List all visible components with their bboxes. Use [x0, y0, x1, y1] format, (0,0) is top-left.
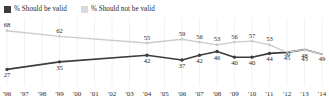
data-point	[198, 41, 201, 44]
data-point	[268, 44, 271, 47]
data-label: 42	[196, 57, 203, 64]
x-axis-tick-03: '03	[125, 89, 133, 99]
data-label: 37	[179, 62, 186, 69]
legend-swatch-not-valid	[81, 6, 88, 13]
x-axis-tick-08: '08	[213, 89, 221, 99]
x-axis-tick-14: '14	[318, 89, 326, 99]
data-label: 40	[231, 59, 238, 66]
data-label: 27	[4, 71, 11, 78]
data-label: 35	[56, 64, 63, 71]
data-label: 53	[266, 35, 273, 42]
data-point	[146, 42, 149, 45]
x-axis-tick-10: '10	[248, 89, 256, 99]
data-point	[6, 29, 9, 32]
data-label: 40	[249, 59, 256, 66]
x-axis-tick-02: '02	[108, 89, 116, 99]
chart-x-axis: '96'97'98'99'00'01'02'03'04'05'06'07'08'…	[0, 89, 329, 103]
chart-legend: % Should be valid % Should not be valid	[4, 3, 155, 15]
chart-container: % Should be valid % Should not be valid …	[0, 0, 329, 106]
legend-item-not-valid: % Should not be valid	[81, 5, 155, 13]
data-point	[233, 41, 236, 44]
legend-label-not-valid: % Should not be valid	[91, 5, 155, 13]
data-label: 43	[301, 55, 308, 62]
x-axis-tick-05: '05	[160, 89, 168, 99]
x-axis-tick-09: '09	[230, 89, 238, 99]
x-axis-tick-01: '01	[90, 89, 98, 99]
x-axis-tick-99: '99	[55, 89, 63, 99]
data-label: 42	[144, 57, 151, 64]
legend-label-valid: % Should be valid	[14, 5, 67, 13]
data-point	[58, 35, 61, 38]
x-axis-tick-96: '96	[3, 89, 11, 99]
x-axis-tick-06: '06	[178, 89, 186, 99]
x-axis-tick-13: '13	[300, 89, 308, 99]
legend-item-valid: % Should be valid	[4, 5, 67, 13]
legend-swatch-valid	[4, 6, 11, 13]
data-point	[251, 40, 254, 43]
chart-plot-area: 2735423742464040446862555956535657534548…	[0, 18, 329, 88]
data-label: 68	[4, 21, 11, 28]
x-axis-tick-04: '04	[143, 89, 151, 99]
data-point	[303, 48, 306, 51]
x-axis-tick-97: '97	[20, 89, 28, 99]
data-label: 53	[214, 35, 221, 42]
x-axis-tick-12: '12	[283, 89, 291, 99]
x-axis-tick-11: '11	[265, 89, 273, 99]
data-label: 62	[56, 27, 63, 34]
data-label: 55	[144, 34, 151, 41]
data-point	[216, 44, 219, 47]
data-label: 59	[179, 30, 186, 37]
data-point	[181, 38, 184, 41]
data-label: 57	[249, 32, 256, 39]
data-label: 50	[284, 50, 291, 57]
data-label: 46	[214, 54, 221, 61]
chart-svg: 2735423742464040446862555956535657534548…	[0, 18, 329, 88]
data-label: 44	[266, 55, 273, 62]
x-axis-tick-98: '98	[38, 89, 46, 99]
data-label: 56	[231, 33, 238, 40]
x-axis-tick-07: '07	[195, 89, 203, 99]
data-label: 56	[196, 33, 203, 40]
data-label: 49	[319, 55, 326, 62]
x-axis-tick-00: '00	[73, 89, 81, 99]
